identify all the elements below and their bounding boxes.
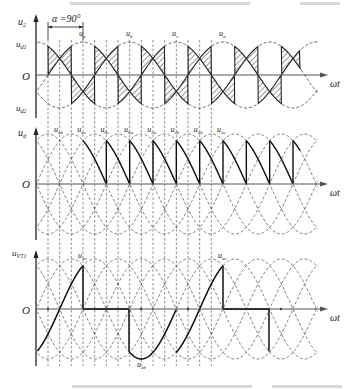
hatched-region <box>235 46 258 75</box>
segment-labels: uabuacubcubaucaucbuabuac <box>54 125 227 135</box>
y-axis-arrow-icon <box>34 14 39 22</box>
uvt1-blocking-uac <box>38 266 84 351</box>
x-label-2: ωt <box>330 187 340 198</box>
header-text-blur <box>70 2 250 5</box>
y-label-uvt1: uVT1 <box>12 248 27 259</box>
y-axis-arrow-icon <box>34 250 39 258</box>
origin-label-3: O <box>22 304 30 316</box>
y-label-ud: ud <box>18 127 27 139</box>
y-label-u2: u2 <box>18 16 26 28</box>
annotation-uab: uab <box>137 360 147 370</box>
header-text-blur-right <box>300 2 340 5</box>
segment-label-uba: uba <box>124 125 133 135</box>
level-label-ud1: ud1 <box>16 39 27 50</box>
segment-label-uca: uca <box>147 125 156 135</box>
panel-ud: ud O ωt uabuacubcubaucaucbuabuac <box>18 125 340 240</box>
hatched-region <box>258 75 281 104</box>
alpha-arrow-left-icon <box>48 26 52 29</box>
origin-label-1: O <box>22 70 30 82</box>
annotation-uac-2: uac <box>218 251 228 261</box>
x-label-1: ωt <box>330 78 340 89</box>
segment-label-uac: uac <box>217 125 227 135</box>
x-axis-arrow-icon <box>320 182 328 187</box>
panel-uvt1: uVT1 O ωt uac uac uab <box>12 248 340 370</box>
ud-segment-uac <box>246 141 269 184</box>
segment-label-uab: uab <box>54 125 64 135</box>
x-label-3: ωt <box>330 312 340 323</box>
footer-caption-blur <box>72 385 252 388</box>
segment-label-uab: uab <box>194 125 204 135</box>
phase-label-uc: uc <box>172 29 179 39</box>
segment-label-ubc: ubc <box>101 125 111 135</box>
phase-label-ub: ub <box>126 29 133 39</box>
y-axis-arrow-icon <box>34 127 39 135</box>
waveform-figure: u2 ud1 ud2 O ωt α =90° uaubucua ud O ωt … <box>0 0 354 389</box>
origin-label-2: O <box>22 178 30 190</box>
x-axis-arrow-icon <box>320 73 328 78</box>
x-axis-arrow-icon <box>320 307 328 312</box>
footer-caption-blur-right <box>272 385 342 388</box>
level-label-ud2: ud2 <box>16 103 27 114</box>
segment-label-uac: uac <box>77 125 87 135</box>
alpha-label: α =90° <box>52 13 81 24</box>
ud-segment-ubc <box>270 141 293 184</box>
phase-labels: uaubucua <box>79 29 226 39</box>
hatched-region <box>211 75 234 104</box>
phase-label-ua: ua <box>219 29 226 39</box>
panel-u2: u2 ud1 ud2 O ωt α =90° uaubucua <box>16 13 340 118</box>
phase-label-ua: ua <box>79 29 86 39</box>
output-voltage-ud <box>83 141 300 184</box>
ud-segment-uba <box>293 141 300 151</box>
hatched-region <box>281 46 300 74</box>
thyristor-voltage-uvt1 <box>38 266 283 359</box>
segment-label-ucb: ucb <box>171 125 180 135</box>
